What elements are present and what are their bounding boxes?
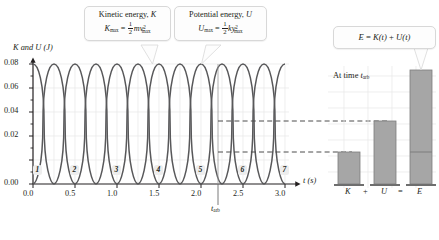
kinetic-energy-callout: Kinetic energy, K Kmax = 12mv2max xyxy=(84,6,171,41)
x-tick-0.0: 0.0 xyxy=(23,189,33,198)
bar-label-u: U xyxy=(381,187,387,196)
region-number-2: 2 xyxy=(70,165,79,175)
y-tick-0.02: 0.02 xyxy=(4,130,18,139)
total-energy-callout: E = K(t) + U(t) xyxy=(333,26,436,49)
bar-operator-equals: = xyxy=(398,187,403,196)
region-number-1: 1 xyxy=(33,165,42,175)
t-arb-label: tarb xyxy=(211,204,220,213)
region-number-5: 5 xyxy=(196,165,205,175)
bar-label-e: E xyxy=(417,187,422,196)
x-tick-0.5: 0.5 xyxy=(65,189,75,198)
x-tick-2.0: 2.0 xyxy=(191,189,201,198)
x-tick-3.0: 3.0 xyxy=(275,189,285,198)
y-axis-label: K and U (J) xyxy=(13,43,53,52)
kinetic-callout-pointer xyxy=(141,45,158,64)
bar-potential xyxy=(374,121,396,184)
x-tick-2.5: 2.5 xyxy=(233,189,243,198)
bar-operator-plus: + xyxy=(363,187,368,196)
region-number-7: 7 xyxy=(280,165,289,175)
y-tick-0.04: 0.04 xyxy=(4,106,18,115)
region-number-3: 3 xyxy=(112,165,121,175)
bar-label-k: K xyxy=(345,187,351,196)
bar-kinetic xyxy=(338,152,360,184)
x-axis-label: t (s) xyxy=(303,176,316,185)
y-tick-0.06: 0.06 xyxy=(4,82,18,91)
at-time-label: At time tarb xyxy=(333,71,369,80)
x-tick-1.0: 1.0 xyxy=(107,189,117,198)
region-number-4: 4 xyxy=(154,165,163,175)
potential-energy-callout: Potential energy, U Umax = 12ky2max xyxy=(174,6,267,41)
bar-total-energy xyxy=(410,70,432,184)
region-number-6: 6 xyxy=(238,165,247,175)
x-tick-1.5: 1.5 xyxy=(149,189,159,198)
potential-callout-pointer xyxy=(202,45,222,64)
y-tick-0.00: 0.00 xyxy=(4,178,18,187)
y-tick-0.08: 0.08 xyxy=(4,58,18,67)
